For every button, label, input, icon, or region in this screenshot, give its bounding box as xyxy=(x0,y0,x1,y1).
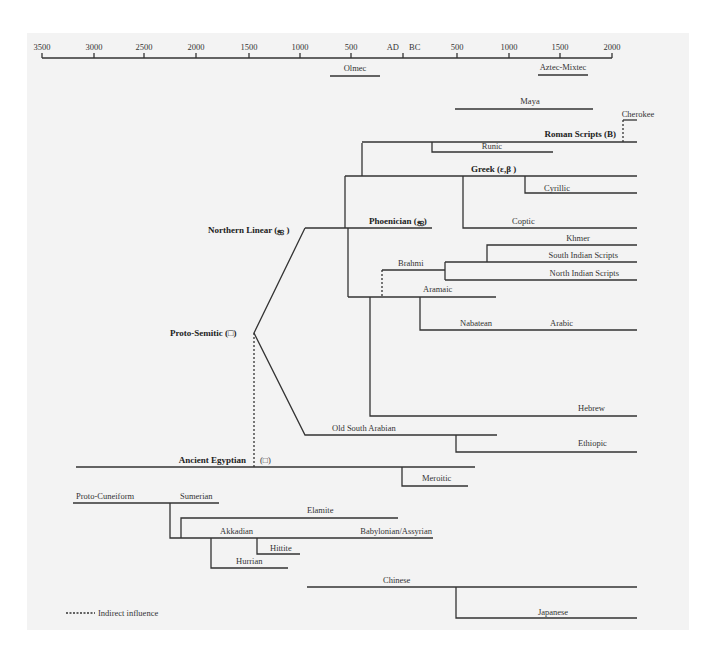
hebrew-line xyxy=(370,297,637,416)
brahmi-label: Brahmi xyxy=(398,258,424,268)
chinese-label: Chinese xyxy=(383,575,411,585)
tick-label: 3000 xyxy=(86,42,103,52)
hebrew-label: Hebrew xyxy=(578,403,606,413)
tick-label: BC xyxy=(409,42,421,52)
aramaic-label: Aramaic xyxy=(423,284,452,294)
tick-label: 2000 xyxy=(188,42,205,52)
tick-label: 2500 xyxy=(136,42,153,52)
babylonian-label: Babylonian/Assyrian xyxy=(360,526,433,536)
arabic-label: Arabic xyxy=(550,318,573,328)
sumerian-label: Sumerian xyxy=(180,491,213,501)
elamite-label: Elamite xyxy=(307,505,334,515)
aztec-label: Aztec-Mixtec xyxy=(540,62,587,72)
ancient-egyptian-label: Ancient Egyptian xyxy=(179,455,246,465)
olmec-label: Olmec xyxy=(344,63,367,73)
tick-label: 500 xyxy=(451,42,464,52)
legend-label: Indirect influence xyxy=(98,608,158,618)
tick-label: 3500 xyxy=(34,42,51,52)
meroitic-label: Meroitic xyxy=(422,473,451,483)
tick-label: 2000 xyxy=(604,42,621,52)
phoenician-label: Phoenician (ஐ) xyxy=(369,216,427,227)
ethiopic-label: Ethiopic xyxy=(578,438,607,448)
old-south-arabian-label: Old South Arabian xyxy=(332,423,396,433)
nabatean-label: Nabatean xyxy=(460,318,493,328)
hittite-label: Hittite xyxy=(270,543,292,553)
hurrian-label: Hurrian xyxy=(236,556,263,566)
tick-label: 1500 xyxy=(552,42,569,52)
tick-label: 500 xyxy=(345,42,358,52)
japanese-label: Japanese xyxy=(538,607,568,617)
tick-label: 1000 xyxy=(501,42,518,52)
cherokee-label: Cherokee xyxy=(622,109,655,119)
arabic-line xyxy=(420,297,637,330)
runic-label: Runic xyxy=(482,141,503,151)
greek-label: Greek (ε,β ) xyxy=(471,164,516,174)
proto-semitic-label: Proto-Semitic (□) xyxy=(170,328,237,338)
tick-label: 1000 xyxy=(292,42,309,52)
proto-semitic-branches xyxy=(254,228,497,435)
writing-systems-tree: 3500 3000 2500 2000 1500 1000 500 AD BC … xyxy=(0,0,712,658)
roman-label: Roman Scripts (В) xyxy=(545,129,617,139)
maya-label: Maya xyxy=(520,96,540,106)
egyptian-glyph-label: (□) xyxy=(260,455,271,465)
akkadian-label: Akkadian xyxy=(220,526,254,536)
cyrillic-line xyxy=(525,176,637,193)
khmer-label: Khmer xyxy=(566,233,590,243)
proto-cuneiform-label: Proto-Cuneiform xyxy=(76,491,134,501)
tick-label: AD xyxy=(387,42,399,52)
northern-linear-label: Northern Linear (ஐ ) xyxy=(208,225,290,236)
north-indian-label: North Indian Scripts xyxy=(550,268,619,278)
tick-label: 1500 xyxy=(241,42,258,52)
south-indian-label: South Indian Scripts xyxy=(549,250,618,260)
coptic-label: Coptic xyxy=(512,216,535,226)
cyrillic-label: Cyrillic xyxy=(544,183,570,193)
ethiopic-line xyxy=(456,435,637,452)
